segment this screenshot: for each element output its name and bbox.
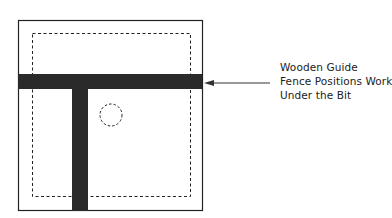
vertical-fence: [72, 89, 88, 211]
outer-board: [19, 21, 203, 211]
callout-line-3: Under the Bit: [280, 88, 392, 102]
arrow-head-icon: [204, 80, 214, 86]
callout-line-2: Fence Positions Work: [280, 74, 392, 88]
horizontal-fence: [18, 74, 202, 89]
callout-line-1: Wooden Guide: [280, 60, 392, 74]
callout-label: Wooden Guide Fence Positions Work Under …: [280, 60, 392, 102]
